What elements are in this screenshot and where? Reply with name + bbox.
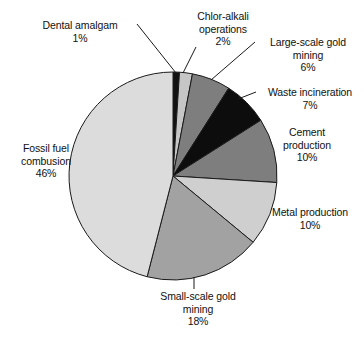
pie-label-small-scale-gold-mining: Small-scale goldmining18% [140, 290, 256, 328]
pie-label-chlor-alkali-name2: operations [199, 23, 247, 35]
pie-label-fossil-fuel-name1: Fossil fuel [23, 142, 69, 154]
pie-slices [69, 72, 277, 280]
leader-line-dental-amalgam [137, 24, 176, 73]
pie-label-chlor-alkali-name1: Chlor-alkali [197, 10, 248, 22]
pie-label-waste-incineration-value: 7% [303, 99, 318, 111]
pie-label-fossil-fuel-value: 46% [36, 167, 57, 179]
pie-label-dental-amalgam: Dental amalgam1% [26, 19, 134, 44]
pie-label-cement-name2: production [283, 139, 331, 151]
pie-label-waste-incineration: Waste incineration7% [258, 86, 362, 111]
pie-label-small-scale-gold-value: 18% [188, 315, 209, 327]
pie-label-fossil-fuel-name2: combusion [21, 155, 71, 167]
pie-label-fossil-fuel-combusion: Fossil fuelcombusion46% [2, 142, 90, 180]
pie-label-large-scale-gold-name2: mining [293, 49, 323, 61]
pie-label-chlor-alkali-value: 2% [216, 35, 231, 47]
pie-label-cement-production: Cementproduction10% [262, 126, 352, 164]
pie-label-dental-amalgam-name: Dental amalgam [42, 19, 117, 31]
pie-label-chlor-alkali-operations: Chlor-alkalioperations2% [182, 10, 264, 48]
pie-label-cement-name1: Cement [289, 126, 325, 138]
pie-label-small-scale-gold-name1: Small-scale gold [160, 290, 235, 302]
pie-label-large-scale-gold-value: 6% [301, 61, 316, 73]
pie-label-large-scale-gold-mining: Large-scale goldmining6% [256, 36, 360, 74]
pie-label-waste-incineration-name: Waste incineration [268, 86, 352, 98]
pie-label-metal-production-value: 10% [300, 219, 321, 231]
leader-line-waste-incineration [238, 92, 256, 99]
pie-label-cement-value: 10% [297, 151, 318, 163]
pie-label-small-scale-gold-name2: mining [183, 303, 213, 315]
pie-label-metal-production-name: Metal production [272, 206, 348, 218]
pie-label-large-scale-gold-name1: Large-scale gold [270, 36, 346, 48]
leader-line-large-scale-gold [211, 42, 255, 80]
leader-line-chlor-alkali [183, 47, 196, 73]
pie-label-metal-production: Metal production10% [258, 206, 362, 231]
pie-chart-figure: Dental amalgam1% Chlor-alkalioperations2… [0, 0, 364, 339]
pie-label-dental-amalgam-value: 1% [73, 32, 88, 44]
